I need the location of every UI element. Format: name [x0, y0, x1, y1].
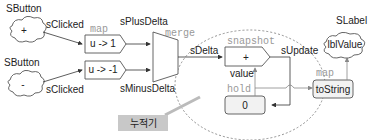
- snapshot-fn: +: [243, 52, 249, 63]
- sbutton-minus-label: SButton: [4, 57, 40, 68]
- sclicked-minus-label: sClicked: [46, 84, 84, 95]
- sbutton-plus-label: SButton: [6, 3, 42, 14]
- sbutton-plus-cloud[interactable]: [10, 16, 46, 42]
- map-plus-fn: u -> 1: [90, 38, 116, 49]
- sdelta-label: sDelta: [190, 45, 219, 56]
- splusdelta-label: sPlusDelta: [120, 16, 168, 27]
- hold-op-label: hold: [227, 84, 251, 95]
- map-minus-fn: u -> -1: [88, 64, 118, 75]
- tostring-fn: toString: [316, 84, 350, 95]
- sbutton-minus-cloud[interactable]: [8, 70, 44, 96]
- snapshot-op-label: snapshot: [227, 36, 275, 47]
- supdate-label: sUpdate: [281, 45, 319, 56]
- tostring-op-label: map: [316, 68, 334, 79]
- value-label: value: [230, 68, 254, 79]
- lblvalue-text: lblValue: [328, 39, 363, 50]
- minus-glyph: -: [21, 79, 24, 90]
- merge-box: [153, 32, 178, 82]
- slabel-label: SLabel: [336, 15, 367, 26]
- sclicked-plus-label: sClicked: [46, 19, 84, 30]
- sminusdelta-label: sMinusDelta: [120, 83, 175, 94]
- hold-initial: 0: [242, 100, 248, 111]
- map-op-label: map: [90, 24, 108, 35]
- callout-text: 누적기: [130, 118, 157, 129]
- callout-pointer: [165, 97, 200, 115]
- plus-glyph: +: [21, 25, 27, 36]
- frp-counter-diagram: 누적기 SButton + sClicked SButton - sClicke…: [0, 0, 384, 140]
